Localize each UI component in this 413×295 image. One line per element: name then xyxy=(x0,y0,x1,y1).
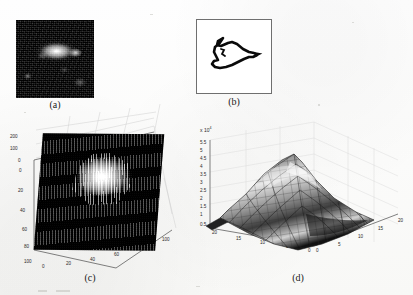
surface-central-mound xyxy=(67,152,135,207)
y-tick-40: 40 xyxy=(20,208,26,213)
y-tick-80: 80 xyxy=(24,244,30,249)
z-tick-100: 100 xyxy=(10,146,18,151)
scan-speck xyxy=(24,112,26,113)
z-tick-4: 4 xyxy=(200,164,203,169)
z-tick-3: 3 xyxy=(200,180,203,185)
z-tick-1p5: 1.5 xyxy=(200,204,207,209)
panel-d-surface-plot: x 104 xyxy=(198,118,410,270)
x-tick-40: 40 xyxy=(90,257,96,262)
y-tick-20: 20 xyxy=(212,230,218,235)
z-tick-labels: 5.5 5 4.5 4 3.5 3 2.5 2 1.5 1 0.5 xyxy=(200,140,207,227)
z-tick-2: 2 xyxy=(200,196,203,201)
surface-wireframe xyxy=(208,143,398,263)
y-tick-0: 0 xyxy=(19,168,22,173)
y-tick-15: 15 xyxy=(236,236,242,241)
panel-c-caption: (c) xyxy=(60,272,120,283)
y-tick-labels: 0 20 40 60 80 100 xyxy=(18,168,32,264)
x-tick-0: 0 xyxy=(42,264,45,269)
lesion-contour-path xyxy=(212,38,257,68)
y-tick-10: 10 xyxy=(260,240,266,245)
panel-c-surface-plot: 200 100 0 0 20 40 60 80 100 0 20 40 60 8… xyxy=(4,118,182,270)
x-tick-10: 10 xyxy=(358,234,364,239)
contour-inner-notch xyxy=(221,49,225,56)
ultrasound-speckle-image xyxy=(16,20,94,98)
y-tick-0: 0 xyxy=(308,248,311,253)
scan-speck xyxy=(318,104,320,106)
fitted-surface-mesh xyxy=(206,143,398,263)
z-tick-2p5: 2.5 xyxy=(200,188,207,193)
y-tick-60: 60 xyxy=(22,227,28,232)
scan-speck xyxy=(38,290,47,292)
panel-d-axes-svg: 5.5 5 4.5 4 3.5 3 2.5 2 1.5 1 0.5 20 15 … xyxy=(198,118,410,270)
intensity-surface-mesh xyxy=(34,133,165,251)
x-tick-0: 0 xyxy=(316,248,319,253)
figure-page: (a) (b) xyxy=(0,0,413,295)
x-tick-100: 100 xyxy=(162,237,170,242)
panel-b-contour-box xyxy=(196,19,272,94)
panel-b-caption: (b) xyxy=(196,96,272,107)
z-tick-3p5: 3.5 xyxy=(200,172,207,177)
x-tick-60: 60 xyxy=(114,252,120,257)
x-tick-20: 20 xyxy=(398,218,404,223)
scan-speck xyxy=(196,286,200,287)
panel-a-caption: (a) xyxy=(16,99,94,110)
x-tick-15: 15 xyxy=(378,226,384,231)
contour-svg xyxy=(197,20,273,95)
z-tick-labels: 200 100 0 xyxy=(10,134,21,163)
scan-speck xyxy=(56,290,70,292)
panel-a-ultrasound-image xyxy=(16,20,94,98)
y-tick-100: 100 xyxy=(24,259,32,264)
z-tick-200: 200 xyxy=(10,134,18,139)
z-tick-4p5: 4.5 xyxy=(200,156,207,161)
z-tick-5: 5 xyxy=(200,148,203,153)
z-tick-0: 0 xyxy=(18,158,21,163)
z-tick-5p5: 5.5 xyxy=(200,140,207,145)
x-tick-20: 20 xyxy=(66,261,72,266)
panel-d-caption: (d) xyxy=(268,272,328,283)
scan-speck xyxy=(352,22,354,23)
contour-frame xyxy=(196,19,272,94)
z-tick-1: 1 xyxy=(200,212,203,217)
y-tick-20: 20 xyxy=(18,188,24,193)
scan-speck xyxy=(150,14,153,15)
z-tick-0p5: 0.5 xyxy=(200,222,207,227)
x-tick-5: 5 xyxy=(338,242,341,247)
